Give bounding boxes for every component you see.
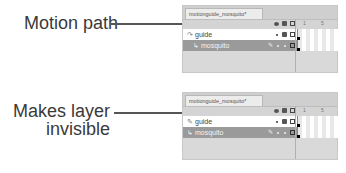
timeline-panel-bottom: motionguide_mosquito* 1 5 ✎guide ↳mosqui… (182, 92, 338, 160)
layer-name: guide (195, 118, 212, 125)
divider (295, 106, 296, 159)
visibility-toggle[interactable] (277, 45, 279, 47)
callout-motion-path: Motion path (8, 14, 118, 32)
layer-row-guide[interactable]: ↷guide (183, 29, 337, 40)
visibility-toggle[interactable] (277, 132, 279, 134)
layer-row-mosquito[interactable]: ↳mosquito ✎ (183, 127, 337, 138)
motion-guide-icon: ↷ (187, 29, 195, 40)
tab-bar: motionguide_mosquito* (183, 6, 337, 20)
pencil-icon: ✎ (268, 43, 273, 48)
empty-layer-area (183, 51, 337, 85)
frame-number: 5 (321, 107, 324, 113)
guide-layer-icon: ✎ (187, 116, 195, 127)
eye-icon[interactable] (274, 22, 279, 26)
normal-layer-icon: ↳ (187, 127, 195, 138)
frame-cells[interactable] (297, 40, 338, 51)
keyframe[interactable] (297, 135, 300, 138)
lock-toggle[interactable] (284, 45, 286, 47)
visibility-toggle[interactable] (276, 34, 278, 36)
lock-icon[interactable] (282, 32, 287, 37)
timeline-panel-top: motionguide_mosquito* 1 5 ↷guide ↳mosqui… (182, 5, 338, 73)
frame-number: 1 (303, 107, 306, 113)
callout-arrow (110, 23, 188, 25)
frame-cells[interactable] (297, 116, 338, 127)
callout-invisible: Makes layer invisible (8, 102, 110, 138)
lock-toggle[interactable] (284, 132, 286, 134)
tab-bar: motionguide_mosquito* (183, 93, 337, 107)
timeline-header: 1 5 (183, 20, 337, 29)
callout-line-2: invisible (8, 120, 110, 138)
callout-line-1: Makes layer (8, 102, 110, 120)
document-tab[interactable]: motionguide_mosquito* (185, 8, 263, 19)
frame-cells[interactable] (297, 29, 338, 40)
layer-row-guide[interactable]: ✎guide (183, 116, 337, 127)
divider (295, 19, 296, 72)
lock-icon[interactable] (282, 119, 287, 124)
callout-arrow (114, 112, 188, 114)
visibility-toggle[interactable] (276, 121, 278, 123)
frame-cells[interactable] (297, 127, 338, 138)
document-tab[interactable]: motionguide_mosquito* (185, 95, 263, 106)
lock-icon[interactable] (282, 108, 287, 113)
layer-name: mosquito (195, 129, 223, 136)
layer-name: guide (195, 31, 212, 38)
layer-row-mosquito[interactable]: ↳mosquito ✎ (183, 40, 337, 51)
guided-layer-icon: ↳ (193, 40, 201, 51)
timeline-header: 1 5 (183, 107, 337, 116)
pencil-icon: ✎ (268, 130, 273, 135)
keyframe[interactable] (297, 48, 300, 51)
frame-number: 1 (303, 20, 306, 26)
empty-layer-area (183, 138, 337, 172)
eye-icon[interactable] (274, 109, 279, 113)
frame-number: 5 (321, 20, 324, 26)
lock-icon[interactable] (282, 21, 287, 26)
layer-name: mosquito (201, 42, 229, 49)
